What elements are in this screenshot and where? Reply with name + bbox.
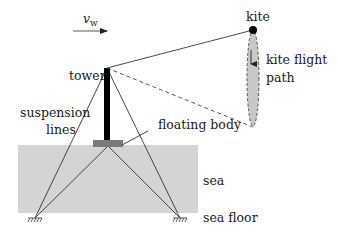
anchor-left-ground-icon <box>28 218 42 222</box>
anchor-right-ground-icon <box>173 218 187 222</box>
sea-floor-label: sea floor <box>203 210 258 225</box>
kite-power-diagram: vw kite kite flight path tower suspensio… <box>0 0 338 237</box>
kite-label: kite <box>246 9 270 24</box>
sea-area <box>18 145 198 213</box>
floating-body <box>93 140 123 147</box>
kite-flight-path <box>247 30 259 126</box>
kite-flight-path-label-line2: path <box>266 70 295 85</box>
wind-speed-label: vw <box>83 11 98 28</box>
tether-line <box>107 30 253 68</box>
kite-dot <box>249 26 257 34</box>
floating-body-label: floating body <box>158 117 242 132</box>
kite-flight-path-label-line1: kite flight <box>266 52 327 67</box>
floating-body-leader <box>122 131 148 145</box>
suspension-lines-label-line1: suspension <box>20 105 90 120</box>
sea-label: sea <box>203 173 225 188</box>
tower-label: tower <box>69 68 106 83</box>
suspension-lines-label-line2: lines <box>46 122 76 137</box>
